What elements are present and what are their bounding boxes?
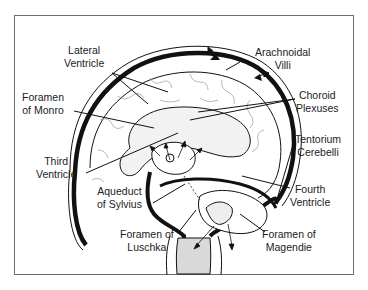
label-lateral-ventricle: Lateral Ventricle	[64, 44, 104, 70]
label-line: Tentorium	[295, 133, 341, 146]
spinal-sheath-right	[218, 236, 222, 275]
label-line: Foramen of	[120, 228, 174, 241]
label-choroid-plexuses: Choroid Plexuses	[296, 89, 339, 115]
label-line: Choroid	[296, 89, 339, 102]
label-line: of Sylvius	[97, 198, 142, 211]
label-fourth-ventricle: Fourth Ventricle	[290, 183, 330, 209]
label-tentorium-cerebelli: Tentorium Cerebelli	[295, 133, 341, 159]
label-line: Ventricle	[64, 57, 104, 70]
label-line: Magendie	[262, 241, 316, 254]
label-line: Ventricle	[290, 196, 330, 209]
label-line: Aqueduct	[97, 185, 142, 198]
label-line: Third	[36, 155, 76, 168]
label-foramen-of-monro: Foramen of Monro	[22, 91, 64, 117]
label-arachnoidal-villi: Arachnoidal Villi	[255, 46, 310, 72]
label-line: Ventricle	[36, 168, 76, 181]
spinal-cord	[176, 238, 210, 274]
label-foramen-of-magendie: Foramen of Magendie	[262, 228, 316, 254]
label-line: Plexuses	[296, 102, 339, 115]
label-line: Fourth	[290, 183, 330, 196]
label-line: Lateral	[64, 44, 104, 57]
label-line: Villi	[255, 59, 310, 72]
label-line: Arachnoidal	[255, 46, 310, 59]
label-line: Luschka	[120, 241, 174, 254]
label-aqueduct-of-sylvius: Aqueduct of Sylvius	[97, 185, 142, 211]
label-line: Foramen	[22, 91, 64, 104]
label-line: Foramen of	[262, 228, 316, 241]
label-foramen-of-luschka: Foramen of Luschka	[120, 228, 174, 254]
label-line: Cerebelli	[295, 146, 341, 159]
interthalamic-adhesion	[166, 154, 174, 162]
label-third-ventricle: Third Ventricle	[36, 155, 76, 181]
label-line: of Monro	[22, 104, 64, 117]
